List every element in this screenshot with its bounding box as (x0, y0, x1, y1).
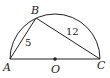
segment-bc (36, 18, 100, 59)
label-b: B (30, 4, 39, 17)
length-bc: 12 (66, 26, 79, 37)
label-a: A (2, 61, 11, 74)
label-c: C (97, 59, 106, 72)
center-point-o (53, 57, 57, 61)
segment-ab (10, 18, 36, 59)
label-o: O (51, 63, 60, 76)
length-ab: 5 (25, 37, 31, 48)
geometry-diagram: A B C O 5 12 (0, 0, 110, 78)
semicircle-arc (10, 14, 100, 59)
